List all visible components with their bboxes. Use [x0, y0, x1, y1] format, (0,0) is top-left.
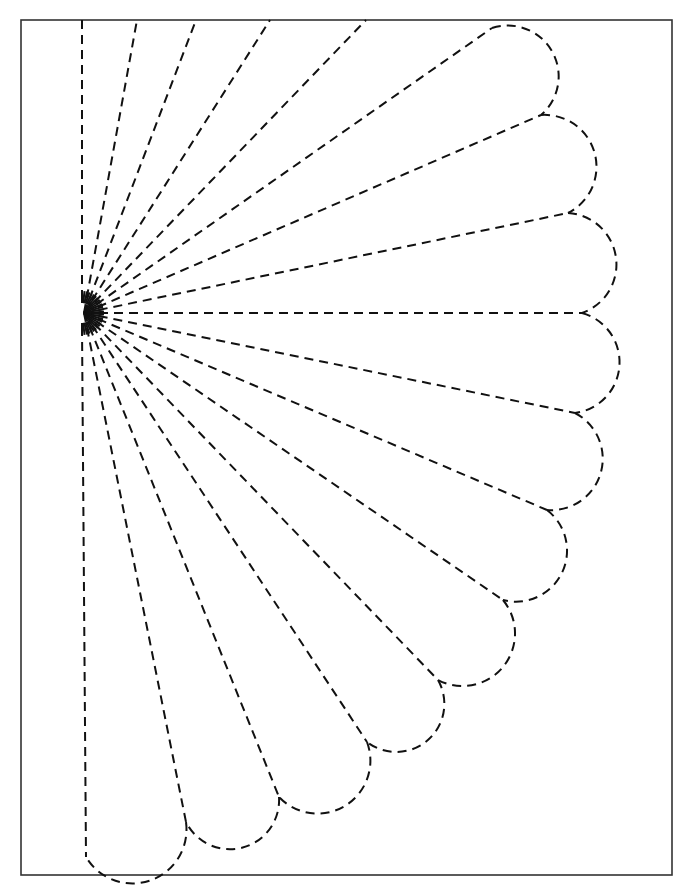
ray-line	[84, 313, 547, 510]
page-frame	[21, 20, 672, 875]
ray-line	[84, 115, 541, 313]
scallop-arc	[367, 680, 444, 752]
fan-template-diagram	[0, 0, 695, 896]
ray-line	[84, 20, 196, 313]
ray-line	[84, 313, 575, 413]
scallop-arc	[279, 742, 370, 814]
ray-line	[82, 327, 86, 857]
scallop-arc	[186, 797, 279, 849]
scallop-edges	[86, 26, 620, 884]
hub-tick	[83, 323, 84, 335]
scallop-arc	[503, 510, 567, 602]
scallop-arc	[438, 600, 515, 686]
hub-tick	[92, 312, 104, 313]
ray-line	[84, 20, 137, 313]
scallop-arc	[575, 313, 620, 413]
scallop-arc	[492, 26, 559, 115]
scallop-arc	[568, 213, 616, 313]
ray-line	[84, 213, 568, 313]
scallop-arc	[547, 413, 603, 510]
ray-line	[84, 313, 279, 797]
ray-line	[84, 20, 366, 313]
scallop-arc	[541, 115, 596, 213]
ray-line	[84, 313, 438, 680]
fan-rays	[82, 20, 582, 857]
ray-line	[84, 20, 270, 313]
ray-line	[84, 28, 492, 313]
